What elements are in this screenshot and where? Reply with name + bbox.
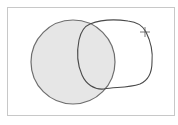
filled-circle-shape[interactable] xyxy=(31,20,115,104)
crosshair-cursor-icon xyxy=(140,27,150,37)
drawing-canvas[interactable] xyxy=(0,0,178,125)
